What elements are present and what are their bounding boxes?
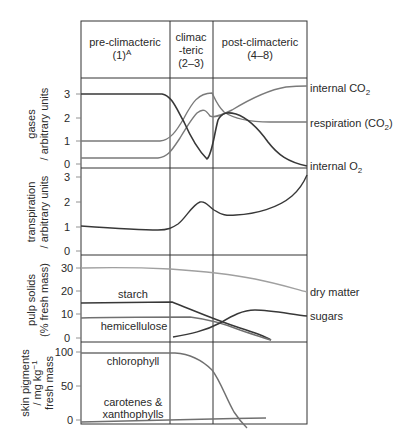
svg-text:0: 0	[64, 245, 70, 257]
gases-panel: gases / arbitrary units 3 2 1 0 internal…	[25, 82, 393, 175]
label-chlorophyll: chlorophyll	[107, 355, 160, 367]
label-sugars: sugars	[310, 310, 344, 322]
curve-internal-o2	[81, 94, 307, 166]
svg-text:pulp solids: pulp solids	[25, 274, 37, 326]
svg-text:3: 3	[64, 88, 70, 100]
gases-y-ticks: 3 2 1 0	[64, 88, 81, 170]
phase-pre-climacteric: pre-climacteric	[89, 36, 161, 48]
svg-text:1: 1	[64, 135, 70, 147]
svg-text:(% fresh mass): (% fresh mass)	[38, 263, 50, 337]
svg-text:0: 0	[64, 332, 70, 344]
phase-post-climacteric: post-climacteric	[222, 36, 299, 48]
svg-text:30: 30	[61, 262, 73, 274]
label-xanthophylls: xanthophylls	[102, 408, 164, 420]
svg-text:/ mg kg−1: / mg kg−1	[30, 360, 43, 406]
pulp-y-ticks: 30 20 10 0	[61, 262, 81, 344]
svg-text:2: 2	[64, 112, 70, 124]
phase-climacteric-1: climac	[175, 31, 207, 43]
label-internal-o2: internal O2	[310, 160, 363, 175]
svg-text:50: 50	[61, 380, 73, 392]
transpiration-y-ticks: 3 2 1 0	[64, 171, 81, 257]
phase-header: pre-climacteric (1)A climac -teric (2–3)…	[89, 31, 298, 69]
svg-text:gases: gases	[25, 109, 37, 139]
svg-text:0: 0	[64, 158, 70, 170]
svg-text:10: 10	[61, 308, 73, 320]
svg-text:100: 100	[55, 346, 73, 358]
skin-pigments-panel: skin pigments / mg kg−1 fresh mass 100 5…	[19, 346, 266, 428]
phase-climacteric-2: -teric	[179, 44, 204, 56]
label-internal-co2: internal CO2	[310, 82, 371, 97]
phase-post-climacteric-number: (4–8)	[247, 49, 273, 61]
phase-pre-climacteric-number: (1)A	[113, 48, 132, 61]
label-hemicellulose: hemicellulose	[101, 320, 168, 332]
curve-transpiration	[81, 175, 307, 230]
svg-text:1: 1	[64, 221, 70, 233]
curve-dry-matter	[81, 268, 307, 292]
label-carotenes: carotenes &	[104, 396, 163, 408]
pulp-y-axis-label: pulp solids (% fresh mass)	[25, 263, 50, 337]
label-respiration-co2: respiration (CO2)	[310, 117, 393, 132]
pulp-solids-panel: pulp solids (% fresh mass) 30 20 10 0 st…	[25, 262, 360, 344]
svg-text:2: 2	[64, 196, 70, 208]
label-starch: starch	[118, 288, 148, 300]
svg-text:3: 3	[64, 171, 70, 183]
transpiration-panel: transpiration / arbitrary units 3 2 1 0	[25, 171, 307, 257]
svg-text:skin pigments: skin pigments	[19, 349, 31, 417]
pigments-y-axis-label: skin pigments / mg kg−1 fresh mass	[19, 349, 55, 417]
label-dry-matter: dry matter	[310, 286, 360, 298]
svg-text:20: 20	[61, 285, 73, 297]
pigments-y-ticks: 100 50 0	[55, 346, 81, 426]
svg-text:/ arbitrary units: / arbitrary units	[38, 87, 50, 160]
transpiration-y-axis-label: transpiration / arbitrary units	[25, 175, 50, 248]
ripening-chart: pre-climacteric (1)A climac -teric (2–3)…	[0, 0, 405, 444]
phase-climacteric-3: (2–3)	[178, 57, 204, 69]
svg-text:transpiration: transpiration	[25, 182, 37, 243]
gases-y-axis-label: gases / arbitrary units	[25, 87, 50, 160]
svg-text:fresh mass: fresh mass	[43, 356, 55, 410]
svg-text:/ arbitrary units: / arbitrary units	[38, 175, 50, 248]
svg-text:0: 0	[67, 414, 73, 426]
curve-sugars	[173, 310, 307, 337]
